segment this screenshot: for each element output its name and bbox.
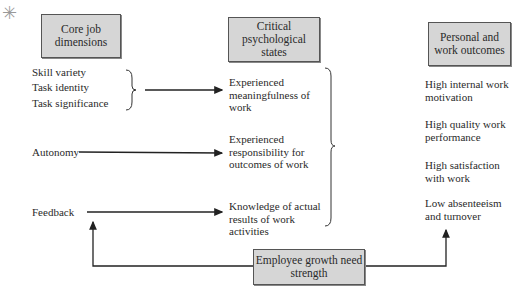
state-meaningfulness: Experienced meaningfulness of work: [229, 76, 319, 114]
arrow-moderator-to-outcomes: [364, 230, 446, 266]
moderator-box: Employee growth need strength: [253, 249, 365, 285]
header-label: Core job dimensions: [42, 23, 120, 49]
core-brace: [126, 70, 136, 110]
state-knowledge: Knowledge of actual results of work acti…: [229, 200, 324, 238]
outcome-performance: High quality work performance: [425, 118, 517, 143]
header-core-job-dimensions: Core job dimensions: [41, 14, 121, 58]
header-label: Critical psychological states: [229, 20, 319, 59]
header-critical-states: Critical psychological states: [228, 17, 320, 62]
core-autonomy: Autonomy: [32, 146, 79, 159]
state-responsibility: Experienced responsibility for outcomes …: [229, 133, 321, 171]
header-label: Personal and work outcomes: [429, 31, 510, 57]
outcome-satisfaction: High satisfaction with work: [425, 159, 515, 184]
core-task-significance: Task significance: [32, 97, 109, 110]
core-feedback: Feedback: [32, 206, 74, 219]
outcome-absenteeism: Low absenteeism and turnover: [425, 197, 515, 222]
core-task-identity: Task identity: [32, 81, 89, 94]
moderator-label: Employee growth need strength: [254, 254, 364, 280]
header-outcomes: Personal and work outcomes: [428, 22, 511, 66]
core-skill-variety: Skill variety: [32, 66, 86, 79]
arrow-autonomy-to-responsibility: [79, 152, 222, 153]
states-brace: [325, 68, 335, 226]
outcome-motivation: High internal work motivation: [425, 78, 515, 103]
